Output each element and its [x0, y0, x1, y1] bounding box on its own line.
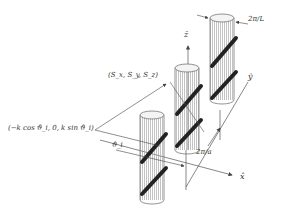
x-axis-label: x̂ — [240, 172, 245, 181]
wavevector-label: (−k cos ϑ_i, 0, k sin ϑ_i) — [8, 124, 94, 132]
cylinder-middle — [170, 64, 204, 154]
period-L-label: 2π/L — [248, 15, 264, 23]
period-a-label: 2π/a — [196, 148, 212, 156]
spin-label: (S_x, S_y, S_z) — [108, 71, 158, 79]
diagram-canvas: 2π/L ẑ ŷ x̂ 2π/a (S_x, S_y, S_z) (−k cos… — [0, 0, 286, 214]
cylinder-front — [140, 111, 166, 204]
diagram-svg — [0, 0, 286, 214]
y-axis-label: ŷ — [248, 72, 253, 81]
angle-label: ϑ_i — [112, 141, 123, 149]
z-axis-label: ẑ — [184, 30, 188, 39]
cylinder-back — [210, 14, 236, 104]
